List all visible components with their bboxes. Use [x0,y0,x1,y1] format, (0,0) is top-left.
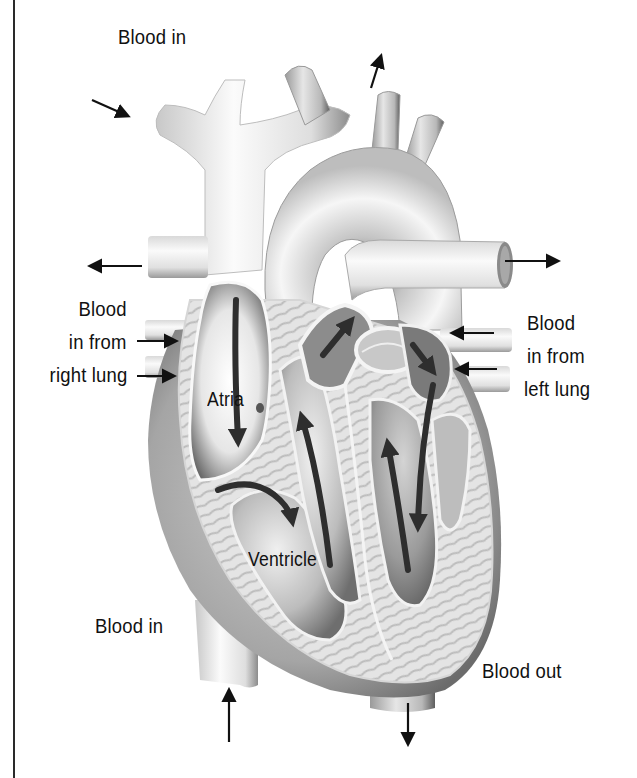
label-left-lung-line3: left lung [524,376,590,402]
label-left-lung-line1: Blood [527,310,575,336]
label-ventricle: Ventricle [248,546,317,572]
flow-ra-down-arrow [235,300,238,440]
label-blood-out: Blood out [482,658,562,684]
arrow-blood-in-top [92,100,128,116]
label-right-lung-line1: Blood [79,296,127,322]
label-right-lung-line2: in from [69,329,127,355]
label-left-lung-line2: in from [527,343,585,369]
label-blood-in-top: Blood in [118,24,186,50]
label-atria: Atria [207,386,244,412]
right-pulmonary-artery [148,236,208,278]
label-blood-in-bottom: Blood in [95,613,163,639]
label-right-lung-line3: right lung [49,362,127,388]
arrow-aorta-out-top [371,56,381,88]
